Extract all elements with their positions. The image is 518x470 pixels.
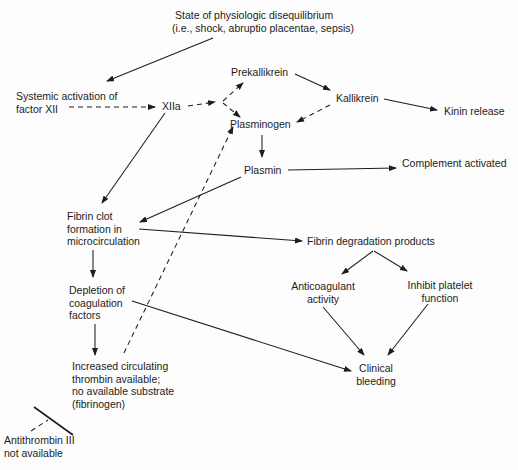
node-disequilibrium-line-1: State of physiologic disequilibrium xyxy=(172,9,372,22)
edge-thrombin-to-plasminogen xyxy=(124,127,233,353)
node-thrombin-line-1: Increased circulating xyxy=(72,360,174,373)
node-kallikrein-label: Kallikrein xyxy=(336,92,379,105)
node-anticoagulant-line-1: Anticoagulant xyxy=(283,280,363,293)
node-plasmin: Plasmin xyxy=(244,164,281,177)
node-xiia: XIIa xyxy=(162,100,181,113)
edge-antithrombin-to-inhibition-bar xyxy=(31,420,48,431)
edge-kallikrein-to-plasminogen xyxy=(297,105,330,122)
node-fibrin-clot: Fibrin clot formation in microcirculatio… xyxy=(67,210,140,248)
node-plasmin-label: Plasmin xyxy=(244,164,281,177)
node-depletion-line-3: factors xyxy=(69,309,125,322)
edge-anticoagulant-to-clinical-bleeding xyxy=(323,307,364,355)
antithrombin-inhibition-bar xyxy=(34,407,73,435)
edge-branch-to-prekallikrein xyxy=(223,83,243,101)
node-disequilibrium: State of physiologic disequilibrium (i.e… xyxy=(172,9,372,34)
node-antithrombin-line-2: not available xyxy=(4,447,75,460)
node-antithrombin-iii: Antithrombin III not available xyxy=(4,434,75,459)
edge-disequilibrium-to-systemic-activation xyxy=(107,38,213,81)
edge-branch-to-plasminogen xyxy=(223,103,240,117)
node-complement-activated: Complement activated xyxy=(402,157,506,170)
edge-plasmin-to-fibrin-clot xyxy=(140,177,241,222)
node-increased-thrombin: Increased circulating thrombin available… xyxy=(72,360,174,410)
node-kallikrein: Kallikrein xyxy=(336,92,379,105)
dic-pathway-diagram: State of physiologic disequilibrium (i.e… xyxy=(0,0,518,470)
node-inhibit-platelet-line-2: function xyxy=(400,292,480,305)
edge-xiia-to-branch xyxy=(188,102,215,106)
node-systemic-activation-line-2: factor XII xyxy=(16,103,118,116)
node-plasminogen-label: Plasminogen xyxy=(230,118,291,131)
edge-inhibit-platelet-to-clinical-bleeding xyxy=(388,304,428,355)
edge-xiia-to-fibrin-clot xyxy=(102,113,165,203)
node-clinical-bleeding-line-1: Clinical xyxy=(348,362,404,375)
node-clinical-bleeding-line-2: bleeding xyxy=(348,375,404,388)
node-prekallikrein-label: Prekallikrein xyxy=(231,66,288,79)
node-systemic-activation: Systemic activation of factor XII xyxy=(16,90,118,115)
node-inhibit-platelet-line-1: Inhibit platelet xyxy=(400,279,480,292)
node-anticoagulant-line-2: activity xyxy=(283,293,363,306)
edge-fibrin-clot-to-fdp xyxy=(139,229,302,241)
node-fibrin-clot-line-3: microcirculation xyxy=(67,235,140,248)
node-fibrin-clot-line-1: Fibrin clot xyxy=(67,210,140,223)
node-thrombin-line-2: thrombin available; xyxy=(72,373,174,386)
node-complement-label: Complement activated xyxy=(402,157,506,170)
node-depletion-of-coagulation-factors: Depletion of coagulation factors xyxy=(69,284,125,322)
node-fdp-label: Fibrin degradation products xyxy=(307,235,435,248)
node-depletion-line-2: coagulation xyxy=(69,297,125,310)
node-inhibit-platelet-function: Inhibit platelet function xyxy=(400,279,480,304)
edge-prekallikrein-to-kallikrein xyxy=(295,74,330,90)
edge-plasmin-to-complement xyxy=(288,168,396,170)
node-thrombin-line-4: (fibrinogen) xyxy=(72,398,174,411)
node-kinin-release: Kinin release xyxy=(444,105,505,118)
node-xiia-label: XIIa xyxy=(162,100,181,113)
edge-fdp-to-inhibit-platelet xyxy=(374,251,407,271)
node-antithrombin-line-1: Antithrombin III xyxy=(4,434,75,447)
node-disequilibrium-line-2: (i.e., shock, abruptio placentae, sepsis… xyxy=(172,22,372,35)
node-systemic-activation-line-1: Systemic activation of xyxy=(16,90,118,103)
node-fibrin-clot-line-2: formation in xyxy=(67,223,140,236)
node-prekallikrein: Prekallikrein xyxy=(231,66,288,79)
node-thrombin-line-3: no available substrate xyxy=(72,385,174,398)
node-depletion-line-1: Depletion of xyxy=(69,284,125,297)
node-kinin-release-label: Kinin release xyxy=(444,105,505,118)
node-fibrin-degradation-products: Fibrin degradation products xyxy=(307,235,435,248)
edge-kallikrein-to-kinin-release xyxy=(384,99,437,110)
node-clinical-bleeding: Clinical bleeding xyxy=(348,362,404,387)
edge-fdp-to-anticoagulant xyxy=(342,251,373,274)
node-plasminogen: Plasminogen xyxy=(230,118,291,131)
node-anticoagulant-activity: Anticoagulant activity xyxy=(283,280,363,305)
